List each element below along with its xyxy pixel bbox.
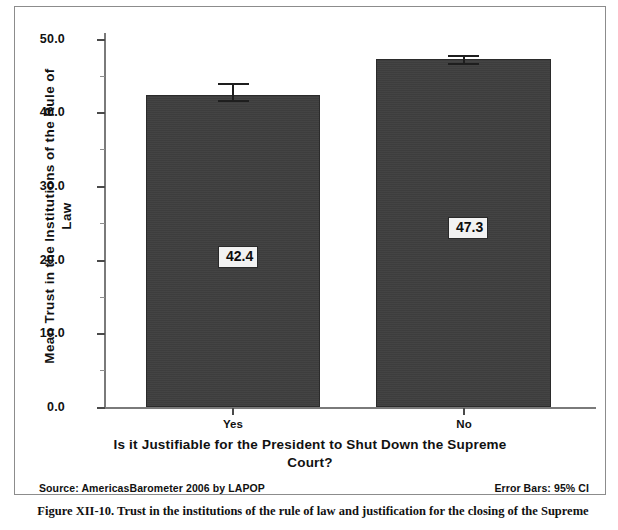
x-axis-title-line2: Court? [287, 455, 332, 470]
source-note: Source: AmericasBarometer 2006 by LAPOP [39, 482, 265, 494]
y-axis-title: Mean Trust in the Institutions of the Ru… [41, 21, 75, 411]
x-axis-title-line1: Is it Justifiable for the President to S… [113, 437, 506, 452]
x-axis-label-no: No [404, 418, 524, 430]
y-axis-title-line2: Law [59, 202, 74, 229]
value-label-yes: 42.4 [218, 246, 258, 268]
x-tick-no [463, 408, 465, 415]
errorbar-cap-lower-yes [218, 100, 249, 102]
errorbar-stem-yes [232, 83, 234, 101]
bar-chart: Mean Trust in the Institutions of the Ru… [15, 7, 607, 496]
y-minor-tick-35 [100, 149, 105, 150]
errorbar-cap-lower-no [448, 63, 479, 65]
figure-frame: Mean Trust in the Institutions of the Ru… [14, 6, 606, 495]
y-axis-line [104, 33, 106, 408]
y-tick-label-30: 30.0 [5, 179, 65, 193]
y-tick-0 [97, 407, 105, 409]
figure-caption: Figure XII-10. Trust in the institutions… [30, 504, 596, 519]
x-axis-label-yes: Yes [173, 418, 293, 430]
y-tick-label-20: 20.0 [5, 253, 65, 267]
y-tick-label-40: 40.0 [5, 105, 65, 119]
errorbar-cap-upper-no [448, 55, 479, 57]
errorbar-cap-upper-yes [218, 83, 249, 85]
y-tick-label-50: 50.0 [5, 32, 65, 46]
y-tick-40 [97, 112, 105, 114]
y-tick-10 [97, 333, 105, 335]
y-tick-20 [97, 260, 105, 262]
y-tick-50 [97, 39, 105, 41]
y-minor-tick-5 [100, 370, 105, 371]
x-axis-title: Is it Justifiable for the President to S… [75, 436, 545, 472]
y-tick-30 [97, 186, 105, 188]
y-minor-tick-15 [100, 297, 105, 298]
x-axis-line [104, 407, 596, 409]
error-bars-note: Error Bars: 95% CI [494, 482, 589, 494]
x-tick-yes [232, 408, 234, 415]
y-minor-tick-45 [100, 76, 105, 77]
y-minor-tick-25 [100, 223, 105, 224]
y-tick-label-0: 0.0 [5, 400, 65, 414]
y-tick-label-10: 10.0 [5, 326, 65, 340]
value-label-no: 47.3 [448, 217, 488, 239]
